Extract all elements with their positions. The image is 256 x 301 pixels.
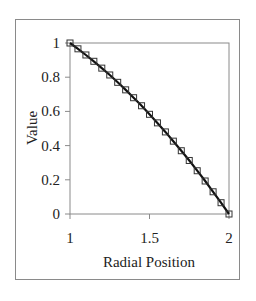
- y-tick-label: 0.6: [41, 103, 60, 119]
- x-tick-label: 1: [66, 230, 74, 246]
- x-axis: 11.52: [66, 214, 233, 246]
- x-axis-title: Radial Position: [103, 254, 196, 270]
- plot-area: [70, 43, 229, 214]
- data-line: [70, 43, 229, 214]
- y-tick-label: 1: [53, 35, 61, 51]
- y-tick-label: 0.2: [41, 172, 60, 188]
- y-axis: 00.20.40.60.81: [41, 35, 70, 222]
- x-tick-label: 1.5: [140, 230, 159, 246]
- y-axis-title: Value: [24, 111, 40, 145]
- y-tick-label: 0.8: [41, 69, 60, 85]
- x-tick-label: 2: [225, 230, 233, 246]
- y-tick-label: 0: [53, 206, 61, 222]
- line-chart: 00.20.40.60.81 11.52 Radial Position Val…: [0, 0, 256, 301]
- data-markers: [67, 40, 232, 217]
- y-tick-label: 0.4: [41, 138, 60, 154]
